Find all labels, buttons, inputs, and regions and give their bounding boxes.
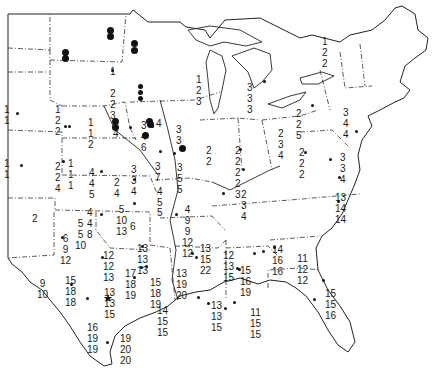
station-dot xyxy=(111,69,114,72)
station-dot xyxy=(20,164,23,167)
station-dot xyxy=(338,176,341,179)
count-label: 16 19 19 xyxy=(87,322,98,355)
count-label: 13 15 22 xyxy=(200,243,211,276)
station-dot xyxy=(222,192,225,195)
station-dot xyxy=(262,250,265,253)
station-dot xyxy=(159,150,162,153)
count-label: 1 1 1 xyxy=(68,158,74,191)
count-label: 3 7 xyxy=(155,161,161,183)
count-label: 13 13 15 xyxy=(211,300,222,333)
count-label: 12 13 15 xyxy=(223,250,234,283)
count-label: 4 5 xyxy=(157,186,163,208)
count-label: 2 2 xyxy=(206,145,212,167)
station-dot xyxy=(145,265,148,268)
station-dot xyxy=(133,276,136,279)
station-dot xyxy=(140,266,143,269)
count-label: 2 3 4 xyxy=(241,189,247,222)
count-label: 11 12 12 xyxy=(297,253,308,286)
count-label: 4 4 8 xyxy=(87,207,93,240)
station-dot xyxy=(239,148,242,151)
count-label: 1 1 2 xyxy=(88,117,94,150)
count-label: 15 18 18 xyxy=(65,275,76,308)
station-dot xyxy=(61,236,64,239)
large-dot-marker xyxy=(179,145,186,152)
count-label: 2 2 4 xyxy=(55,161,61,194)
count-label: 5 10 13 xyxy=(116,204,127,237)
count-label: 4 9 9 12 12 xyxy=(182,204,193,259)
station-dot xyxy=(233,301,236,304)
count-label: 13 14 14 xyxy=(335,192,346,225)
count-label: 13 19 20 xyxy=(176,268,187,301)
count-label: 3 3 3 xyxy=(247,82,253,115)
count-label: 3 3 4 xyxy=(340,152,346,185)
station-dot xyxy=(133,178,136,181)
count-label: 4 4 5 xyxy=(89,167,95,200)
station-dot xyxy=(16,112,19,115)
station-dot xyxy=(141,245,144,248)
count-label: 1 2 3 xyxy=(196,74,202,107)
large-dot-marker xyxy=(107,33,114,40)
count-label: 2 4 xyxy=(114,177,120,199)
count-label: 3 4 4 xyxy=(343,107,349,140)
large-dot-marker xyxy=(142,132,149,139)
station-dot xyxy=(86,297,89,300)
station-dot xyxy=(195,256,198,259)
station-dot xyxy=(329,158,332,161)
station-dot xyxy=(101,256,104,259)
count-label: 5 5 10 xyxy=(75,218,86,251)
station-dot xyxy=(100,170,103,173)
station-dot xyxy=(337,200,340,203)
station-dot xyxy=(311,104,314,107)
large-dot-marker xyxy=(112,124,119,131)
station-dot xyxy=(238,268,241,271)
stacked-dot-marker xyxy=(138,84,143,89)
count-label: 11 15 15 xyxy=(250,307,261,340)
station-dot xyxy=(129,126,132,129)
station-dot xyxy=(304,151,307,154)
count-label: 12 12 13 xyxy=(103,250,114,283)
count-label: 17 18 19 xyxy=(125,268,136,301)
count-label: 4 xyxy=(156,118,162,129)
station-dot xyxy=(68,125,71,128)
station-dot xyxy=(224,307,227,310)
station-dot xyxy=(242,168,245,171)
count-label: 9 10 xyxy=(37,278,48,300)
count-label: 6 xyxy=(130,221,136,232)
lake-erie xyxy=(268,92,306,108)
count-label: 3 5 5 xyxy=(177,162,183,195)
large-dot-marker xyxy=(62,55,69,62)
station-dot xyxy=(62,160,65,163)
count-label: 2 2 3 xyxy=(110,88,116,121)
river-ohio xyxy=(212,166,280,190)
lake-michigan xyxy=(206,50,226,114)
station-dot xyxy=(191,252,194,255)
count-label: 3 3 xyxy=(176,124,182,146)
large-dot-marker xyxy=(131,40,138,47)
station-dot xyxy=(133,202,136,205)
stacked-dot-marker xyxy=(138,90,143,95)
station-dot xyxy=(64,125,67,128)
count-label: 5 xyxy=(157,207,163,218)
station-dot xyxy=(253,252,256,255)
large-dot-marker xyxy=(131,47,138,54)
star-icon: ★ xyxy=(103,293,113,304)
station-dot xyxy=(197,296,200,299)
lake-ontario xyxy=(300,72,334,84)
count-label: 1 2 2 xyxy=(55,104,61,137)
large-dot-marker xyxy=(147,121,154,128)
station-dot xyxy=(100,213,103,216)
stacked-dot-marker xyxy=(138,96,143,101)
station-dot xyxy=(322,279,325,282)
station-dot xyxy=(355,130,358,133)
count-label: 15 15 16 xyxy=(325,288,336,321)
station-dot xyxy=(106,341,109,344)
count-label: 1 1 xyxy=(4,158,10,180)
count-label: 19 20 20 xyxy=(120,333,131,366)
station-dot xyxy=(273,246,276,249)
station-dot xyxy=(207,302,210,305)
station-dot xyxy=(313,298,316,301)
station-dot xyxy=(173,152,176,155)
count-label: 1 2 2 xyxy=(322,36,328,69)
station-dot xyxy=(70,283,73,286)
count-label: 1 1 xyxy=(4,104,10,126)
